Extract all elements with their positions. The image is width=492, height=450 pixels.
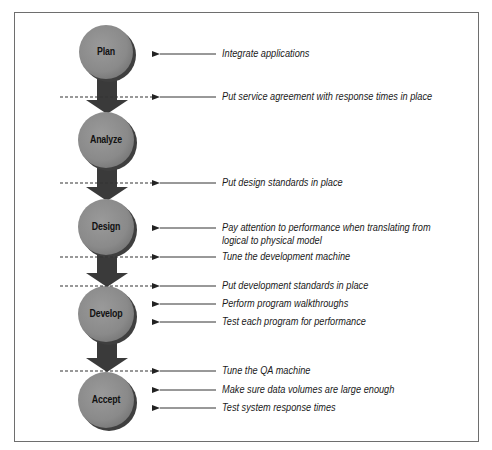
note-tune-qa-machine: Tune the QA machine <box>222 364 310 377</box>
annotation-arrows <box>160 54 216 408</box>
down-arrow-plan-analyze <box>86 78 128 114</box>
note-integrate-applications: Integrate applications <box>222 47 309 60</box>
stage-label-analyze: Analyze <box>75 134 137 145</box>
note-design-standards: Put design standards in place <box>222 176 343 189</box>
note-service-agreement: Put service agreement with response time… <box>222 90 432 103</box>
stage-label-accept: Accept <box>75 394 137 405</box>
note-program-walkthroughs: Perform program walkthroughs <box>222 297 348 310</box>
note-development-standards: Put development standards in place <box>222 279 368 292</box>
stage-label-develop: Develop <box>75 308 137 319</box>
note-line-1: Pay attention to performance when transl… <box>222 221 431 234</box>
note-data-volumes: Make sure data volumes are large enough <box>222 383 394 396</box>
stage-label-design: Design <box>75 221 137 232</box>
note-test-system-response: Test system response times <box>222 401 336 414</box>
stage-label-plan: Plan <box>75 46 137 57</box>
note-pay-attention-performance: Pay attention to performance when transl… <box>222 221 431 247</box>
note-test-program-performance: Test each program for performance <box>222 315 366 328</box>
note-tune-development-machine: Tune the development machine <box>222 250 350 263</box>
note-line-2: logical to physical model <box>222 234 431 247</box>
down-arrow-design-develop <box>86 253 128 287</box>
